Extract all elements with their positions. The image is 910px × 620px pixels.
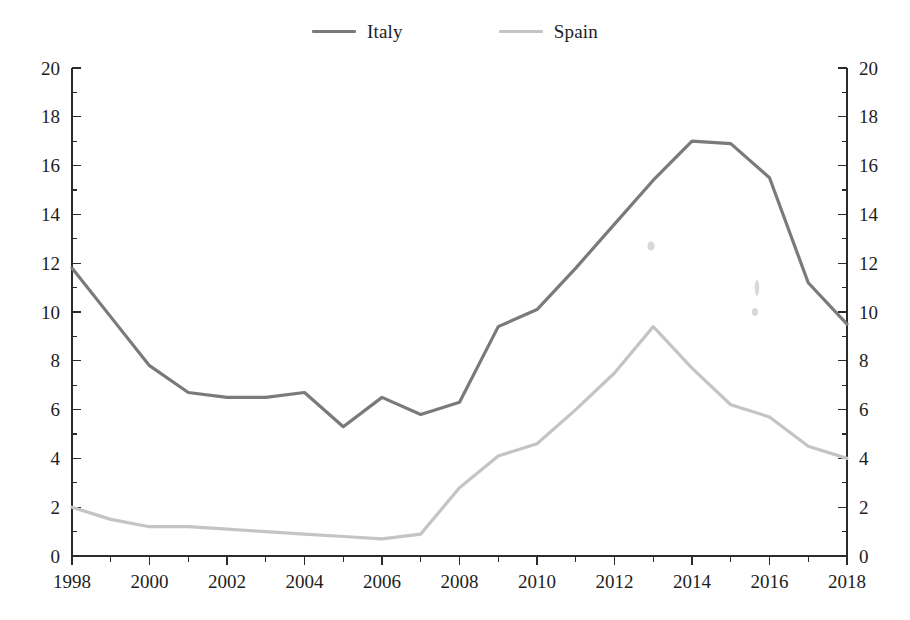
y-axis-label-right: 4	[859, 448, 869, 469]
y-axis-label-right: 6	[859, 399, 869, 420]
x-axis-label: 2006	[363, 571, 401, 592]
x-axis-label: 2010	[518, 571, 556, 592]
chart-plot-area: 0246810121416182002468101214161820199820…	[0, 0, 910, 620]
y-axis-label-left: 4	[51, 448, 61, 469]
y-axis-label-right: 20	[859, 58, 878, 79]
line-chart-svg: 0246810121416182002468101214161820199820…	[0, 0, 910, 620]
scan-smudge-marks	[648, 242, 760, 317]
y-axis-label-left: 0	[51, 546, 61, 567]
x-axis-label: 2018	[828, 571, 866, 592]
x-axis-label: 1998	[53, 571, 91, 592]
y-axis-label-left: 8	[51, 350, 61, 371]
chart-series	[72, 141, 847, 539]
y-axis-label-right: 0	[859, 546, 869, 567]
y-axis-label-right: 18	[859, 106, 878, 127]
chart-axes: 0246810121416182002468101214161820199820…	[41, 58, 879, 593]
x-axis-label: 2016	[751, 571, 789, 592]
x-axis-label: 2012	[596, 571, 634, 592]
x-axis-label: 2014	[673, 571, 712, 592]
x-axis-label: 2008	[441, 571, 479, 592]
chart-page: Italy Spain 0246810121416182002468101214…	[0, 0, 910, 620]
series-line-italy	[72, 141, 847, 426]
x-axis-label: 2000	[131, 571, 169, 592]
y-axis-label-right: 8	[859, 350, 869, 371]
y-axis-label-left: 10	[41, 302, 60, 323]
y-axis-label-right: 16	[859, 155, 878, 176]
y-axis-label-left: 6	[51, 399, 61, 420]
y-axis-label-right: 12	[859, 253, 878, 274]
y-axis-label-right: 2	[859, 497, 869, 518]
y-axis-label-left: 18	[41, 106, 60, 127]
y-axis-label-left: 14	[41, 204, 61, 225]
y-axis-label-left: 2	[51, 497, 61, 518]
y-axis-label-right: 14	[859, 204, 879, 225]
y-axis-label-left: 20	[41, 58, 60, 79]
x-axis-label: 2002	[208, 571, 246, 592]
x-axis-label: 2004	[286, 571, 325, 592]
y-axis-label-left: 12	[41, 253, 60, 274]
y-axis-label-right: 10	[859, 302, 878, 323]
series-line-spain	[72, 327, 847, 539]
y-axis-label-left: 16	[41, 155, 60, 176]
axis-frame	[72, 68, 847, 556]
